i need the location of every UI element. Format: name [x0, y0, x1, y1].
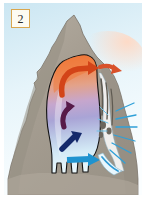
glacier-cross-section-illustration [4, 3, 142, 195]
figure-panel: 2 [0, 0, 146, 203]
figure-number-badge: 2 [11, 9, 30, 28]
figure-frame: 2 [0, 0, 146, 203]
rock-blob [99, 132, 103, 138]
figure-canvas: 2 [4, 3, 142, 195]
